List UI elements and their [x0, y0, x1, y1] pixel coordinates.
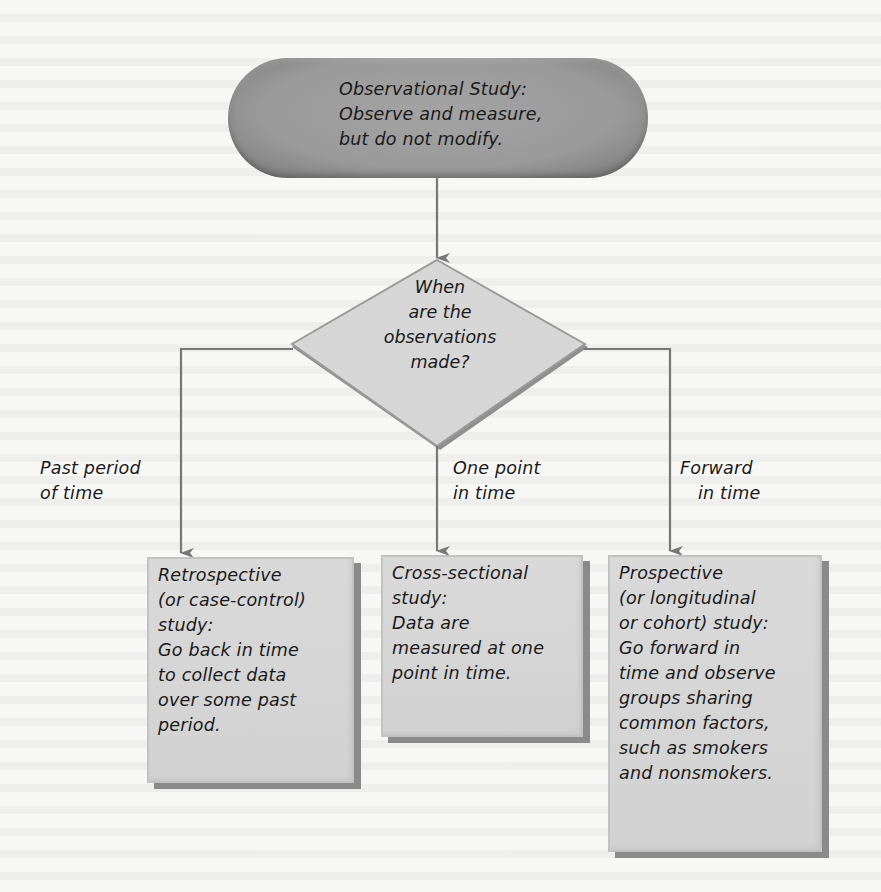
box-body-line: time and observe [619, 661, 776, 686]
box-title-line: Cross-sectional [392, 561, 544, 586]
edge-label-one-point: One point in time [453, 456, 541, 506]
box-title-line: or cohort) study: [619, 611, 776, 636]
edge-label-line: Past period [40, 456, 141, 481]
edge-label-line: Forward [680, 456, 760, 481]
box-body-line: measured at one [392, 636, 544, 661]
box-body-line: groups sharing [619, 686, 776, 711]
decision-line: are the [340, 300, 540, 325]
edge-label-line: One point [453, 456, 541, 481]
decision-line: observations [340, 325, 540, 350]
box-cross-sectional-study: Cross-sectional study: Data are measured… [381, 555, 583, 737]
box-body-line: Go back in time [158, 638, 306, 663]
edge-label-past: Past period of time [40, 456, 141, 506]
box-body-line: point in time. [392, 661, 544, 686]
root-title: Observational Study: [339, 77, 542, 102]
arrow-left-branch [181, 349, 293, 553]
root-line: Observe and measure, [339, 102, 542, 127]
box-body-line: common factors, [619, 711, 776, 736]
box-title-line: Prospective [619, 561, 776, 586]
box-body-line: and nonsmokers. [619, 761, 776, 786]
box-title-line: (or case-control) [158, 588, 306, 613]
box-retrospective-study: Retrospective (or case-control) study: G… [147, 557, 354, 783]
box-title-line: study: [158, 613, 306, 638]
edge-label-line: in time [680, 481, 760, 506]
root-node-observational-study: Observational Study: Observe and measure… [228, 58, 648, 178]
box-body-line: Data are [392, 611, 544, 636]
edge-label-line: in time [453, 481, 541, 506]
box-title-line: Retrospective [158, 563, 306, 588]
decision-line: made? [340, 350, 540, 375]
edge-label-line: of time [40, 481, 141, 506]
edge-label-forward: Forward in time [680, 456, 760, 506]
decision-text: When are the observations made? [340, 275, 540, 375]
box-body-line: such as smokers [619, 736, 776, 761]
box-body-line: Go forward in [619, 636, 776, 661]
box-body-line: period. [158, 713, 306, 738]
arrow-right-branch [584, 349, 670, 551]
box-title-line: (or longitudinal [619, 586, 776, 611]
box-title-line: study: [392, 586, 544, 611]
box-prospective-study: Prospective (or longitudinal or cohort) … [608, 555, 822, 852]
decision-line: When [340, 275, 540, 300]
box-body-line: to collect data [158, 663, 306, 688]
box-body-line: over some past [158, 688, 306, 713]
root-line: but do not modify. [339, 127, 542, 152]
